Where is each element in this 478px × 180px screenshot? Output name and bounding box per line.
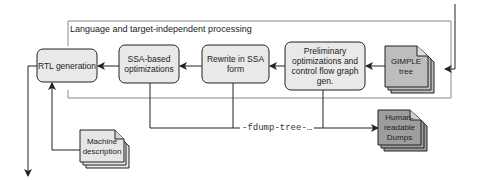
edge-label-fdump: -fdump-tree-… (240, 123, 314, 133)
edge-machine-rtl (52, 83, 80, 150)
region-title: Language and target-independent processi… (70, 24, 252, 34)
node-dumps-label: Human-readable Dumps (379, 111, 420, 145)
input-arrow (445, 4, 455, 69)
dump-line-ssa (150, 83, 233, 128)
gcc-pipeline-diagram: Language and target-independent processi… (0, 0, 478, 180)
node-machine-label: Machine description (80, 131, 124, 162)
node-ssa-opt-label: SSA-based optimizations (121, 45, 177, 83)
node-gimple-label: GIMPLE tree (387, 48, 425, 86)
edge-rtl-output (28, 66, 37, 176)
node-rtl-label: RTL generation (37, 49, 97, 82)
node-prelim-label: Preliminary optimizations and control fl… (287, 42, 363, 90)
node-rewrite-label: Rewrite in SSA form (204, 45, 267, 83)
